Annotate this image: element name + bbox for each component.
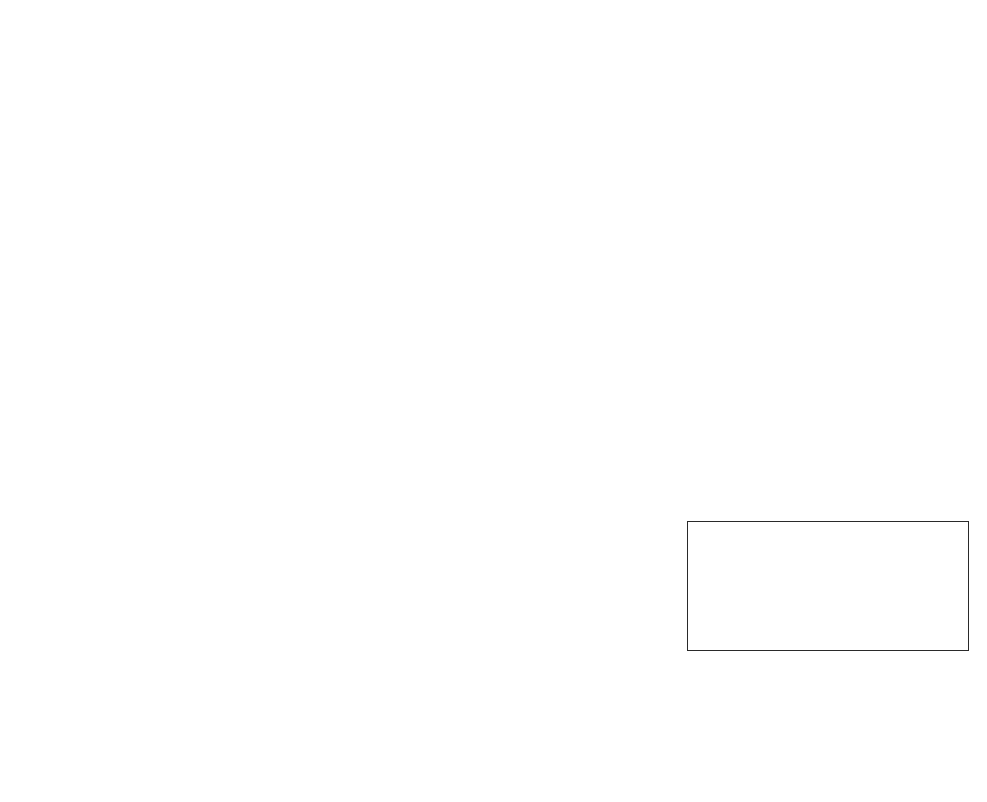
plot-canvas bbox=[0, 0, 987, 802]
chart-figure bbox=[0, 0, 987, 802]
chart-legend bbox=[687, 521, 969, 651]
